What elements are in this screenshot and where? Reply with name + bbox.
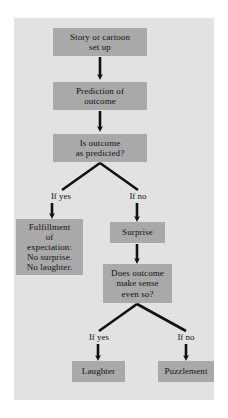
node-story-setup-label: Story or cartoon set up [68,32,132,52]
edge-label-no-branch-1: If no [117,192,159,201]
node-story-setup: Story or cartoon set up [53,28,147,56]
node-puzzlement: Puzzlement [158,361,214,382]
edge-label-yes-branch-2: If yes [78,333,120,342]
node-does-outcome-make-sense-label: Does outcome make sense even so? [109,268,166,298]
node-surprise: Surprise [110,222,165,243]
node-laughter-label: Laughter [80,366,117,376]
node-prediction: Prediction of outcome [53,82,147,110]
node-is-outcome-as-predicted: Is outcome as predicted? [53,134,147,162]
diagram-panel [14,18,214,400]
edge-label-yes-branch-1: If yes [40,192,82,201]
node-does-outcome-make-sense: Does outcome make sense even so? [103,264,172,303]
node-puzzlement-label: Puzzlement [163,366,210,376]
node-laughter: Laughter [72,361,125,382]
flowchart-canvas: Story or cartoon set up Prediction of ou… [0,0,228,418]
edge-label-no-branch-2: If no [165,333,207,342]
node-surprise-label: Surprise [120,227,155,237]
node-fulfillment-label: Fulfillment of expectation: No surprise.… [25,222,75,272]
node-fulfillment: Fulfillment of expectation: No surprise.… [16,219,83,275]
node-is-outcome-as-predicted-label: Is outcome as predicted? [74,138,127,158]
node-prediction-label: Prediction of outcome [74,86,126,106]
